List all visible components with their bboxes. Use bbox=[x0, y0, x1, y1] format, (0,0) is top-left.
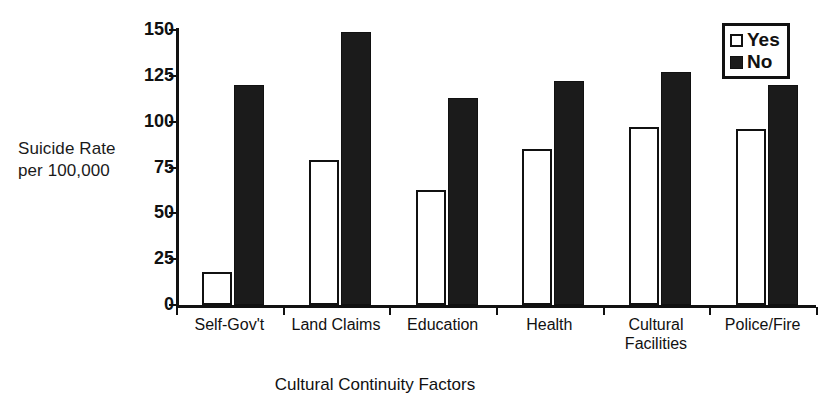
x-tick bbox=[603, 307, 605, 315]
chart-canvas: Suicide Rate per 100,000 025507510012515… bbox=[0, 0, 830, 409]
y-axis-line bbox=[176, 28, 179, 307]
y-tick-label: 75 bbox=[114, 157, 174, 178]
y-tick-label: 100 bbox=[114, 111, 174, 132]
x-tick bbox=[283, 307, 285, 315]
bar-yes bbox=[736, 129, 766, 305]
legend-swatch-no-icon bbox=[730, 56, 743, 69]
bar-yes bbox=[416, 190, 446, 306]
x-tick bbox=[816, 307, 818, 315]
bar-yes bbox=[629, 127, 659, 305]
bar-yes bbox=[522, 149, 552, 305]
legend-item-yes: Yes bbox=[730, 29, 780, 51]
x-category-label: Police/Fire bbox=[699, 315, 826, 334]
x-axis-title-text: Cultural Continuity Factors bbox=[275, 375, 475, 395]
y-tick-label: 150 bbox=[114, 19, 174, 40]
legend-label-yes: Yes bbox=[747, 30, 780, 50]
plot-area: 0255075100125150 bbox=[176, 28, 816, 307]
bar-yes bbox=[309, 160, 339, 305]
legend-item-no: No bbox=[730, 51, 780, 73]
legend-label-no: No bbox=[747, 52, 772, 72]
legend: Yes No bbox=[722, 23, 790, 79]
y-tick-label: 50 bbox=[114, 202, 174, 223]
bar-no bbox=[234, 85, 264, 305]
bar-no bbox=[448, 98, 478, 305]
bar-no bbox=[341, 32, 371, 305]
y-tick-label: 25 bbox=[114, 248, 174, 269]
bar-yes bbox=[202, 272, 232, 305]
x-axis-title: Cultural Continuity Factors bbox=[0, 375, 830, 395]
x-tick bbox=[176, 307, 178, 315]
y-tick-label: 125 bbox=[114, 65, 174, 86]
bar-no bbox=[661, 72, 691, 305]
y-tick-label: 0 bbox=[114, 294, 174, 315]
x-tick bbox=[496, 307, 498, 315]
bar-no bbox=[768, 85, 798, 305]
x-tick bbox=[389, 307, 391, 315]
legend-swatch-yes-icon bbox=[730, 34, 743, 47]
bar-no bbox=[554, 81, 584, 305]
x-tick bbox=[709, 307, 711, 315]
